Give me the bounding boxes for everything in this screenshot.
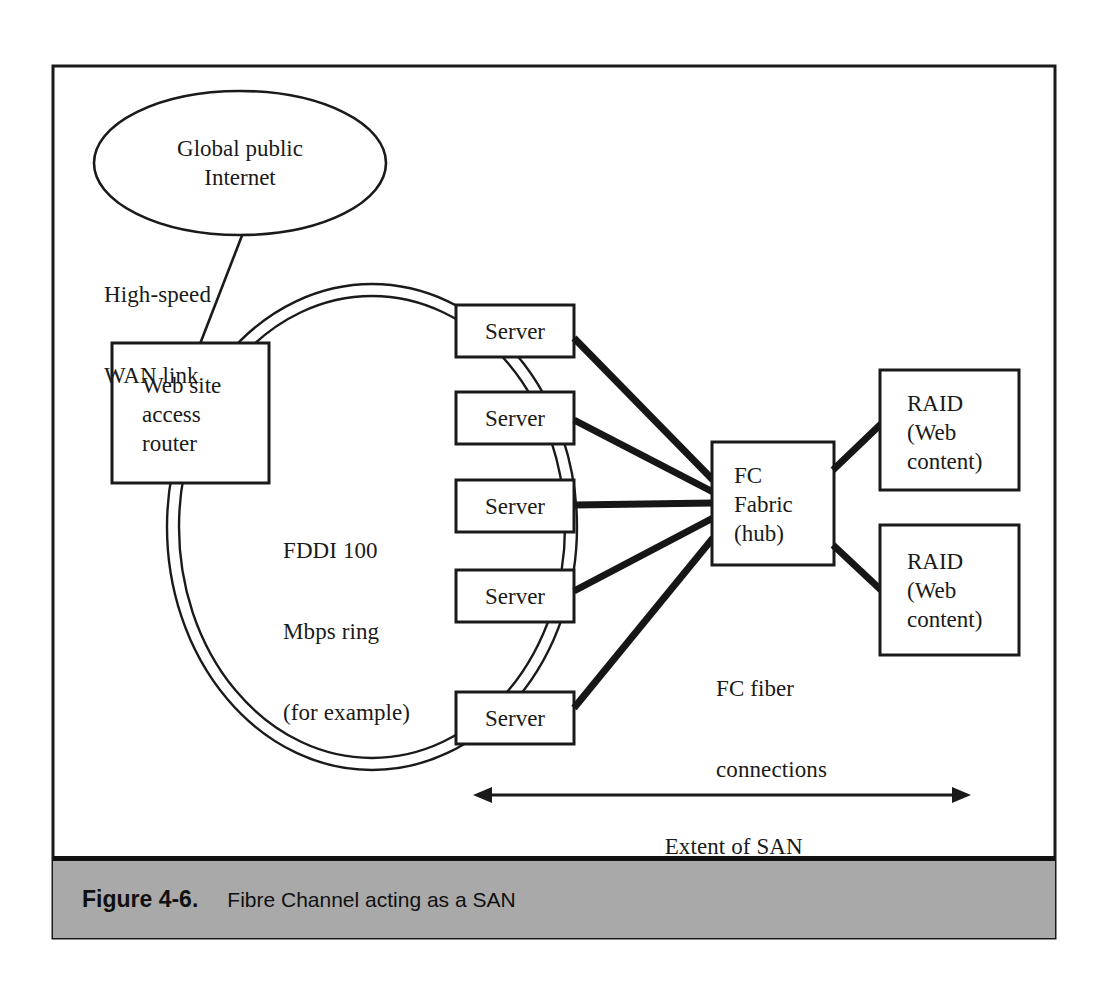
server-box-shape-1 — [456, 305, 574, 357]
fc-fiber-annotation-line2: connections — [716, 756, 916, 783]
fddi-ring-annotation: FDDI 100 Mbps ring (for example) — [283, 483, 483, 780]
figure-caption-bar: Figure 4-6. Fibre Channel acting as a SA… — [53, 856, 1055, 938]
fc-fiber-annotation-line1: FC fiber — [716, 675, 916, 702]
figure-container: Global public Internet High-speed WAN li… — [0, 0, 1106, 986]
fc-link-server-3 — [574, 503, 713, 505]
wan-link-annotation: High-speed WAN link — [104, 227, 284, 443]
server-box-shape-2 — [456, 392, 574, 444]
wan-link-annotation-line1: High-speed — [104, 281, 284, 308]
raid-box-shape-1 — [880, 370, 1019, 490]
figure-caption-text: Fibre Channel acting as a SAN — [227, 888, 515, 912]
fc-fiber-annotation: FC fiber connections — [716, 621, 916, 837]
fabric-box-shape — [712, 442, 834, 565]
figure-caption-number: Figure 4-6. — [82, 886, 198, 913]
fddi-ring-annotation-line3: (for example) — [283, 699, 483, 726]
internet-cloud-shape — [94, 91, 386, 235]
fddi-ring-annotation-line1: FDDI 100 — [283, 537, 483, 564]
wan-link-annotation-line2: WAN link — [104, 362, 284, 389]
fddi-ring-annotation-line2: Mbps ring — [283, 618, 483, 645]
